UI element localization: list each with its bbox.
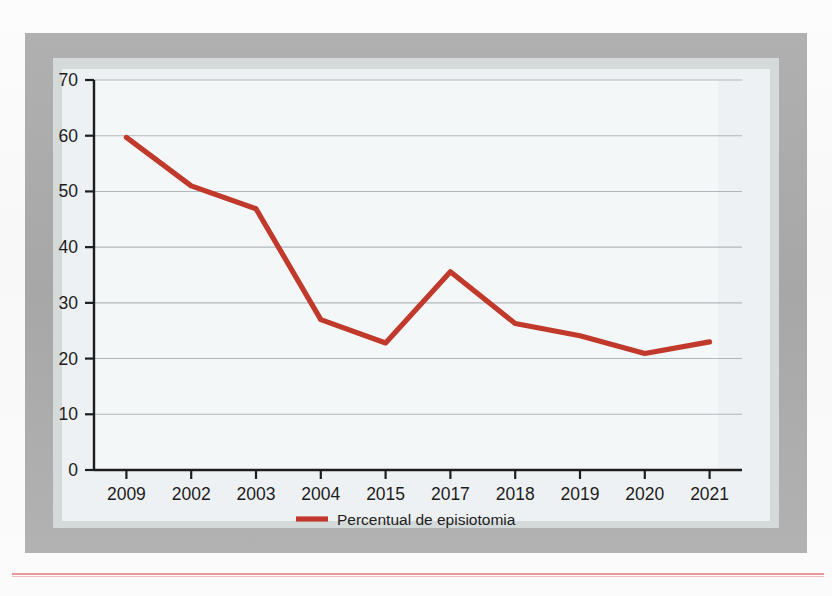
chart-area: 010203040506070 200920022003200420152017… (0, 0, 832, 596)
page-rule-line-secondary (12, 576, 824, 577)
legend: Percentual de episiotomia (296, 511, 516, 528)
x-tick-label: 2015 (366, 484, 405, 504)
legend-label: Percentual de episiotomia (337, 511, 516, 528)
x-tick-label: 2004 (301, 484, 340, 504)
y-tick-label: 0 (68, 460, 78, 480)
gridlines (94, 80, 742, 414)
y-tick-label: 60 (59, 126, 79, 146)
y-tick-marks (85, 80, 94, 470)
scanned-page: parto instrumentados um sinal: de canulo… (0, 0, 832, 596)
data-series-line (126, 137, 709, 353)
y-tick-label: 20 (59, 349, 79, 369)
y-tick-labels: 010203040506070 (59, 70, 79, 480)
y-tick-label: 40 (59, 237, 79, 257)
y-tick-label: 70 (59, 70, 79, 90)
y-tick-label: 10 (59, 404, 79, 424)
line-chart: 010203040506070 200920022003200420152017… (0, 0, 832, 596)
x-tick-marks (126, 470, 709, 479)
y-tick-label: 30 (59, 293, 79, 313)
y-tick-label: 50 (59, 181, 79, 201)
x-tick-label: 2002 (172, 484, 211, 504)
x-tick-label: 2009 (107, 484, 146, 504)
x-tick-labels: 2009200220032004201520172018201920202021 (107, 484, 729, 504)
x-tick-label: 2019 (561, 484, 600, 504)
x-tick-label: 2021 (690, 484, 729, 504)
x-tick-label: 2003 (237, 484, 276, 504)
page-rule-line (12, 573, 824, 575)
x-tick-label: 2017 (431, 484, 470, 504)
x-tick-label: 2018 (496, 484, 535, 504)
x-tick-label: 2020 (625, 484, 664, 504)
